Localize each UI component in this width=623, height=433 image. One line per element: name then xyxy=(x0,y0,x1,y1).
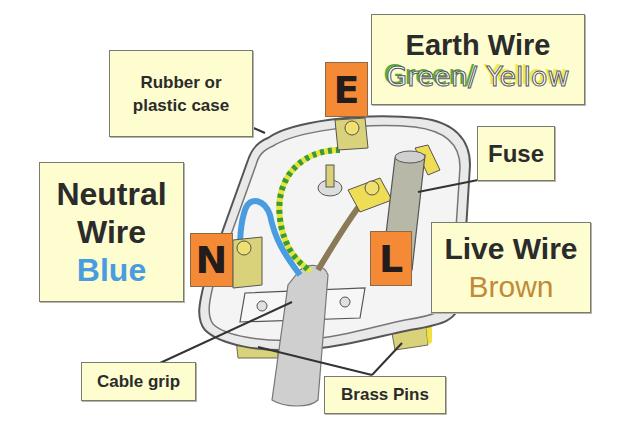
cable-grip-text: Cable grip xyxy=(97,372,180,392)
terminal-tile-live: L xyxy=(370,231,412,286)
label-case-line1: Rubber or xyxy=(140,71,221,94)
live-wire-color: Brown xyxy=(468,268,553,306)
neutral-color: Blue xyxy=(77,251,146,289)
label-brass-pins: Brass Pins xyxy=(324,376,446,414)
live-wire-title: Live Wire xyxy=(444,230,577,268)
earth-wire-colors: Green/ Yellow xyxy=(386,62,569,92)
brass-pins-text: Brass Pins xyxy=(341,385,429,405)
earth-color-separator: / xyxy=(468,61,477,92)
terminal-letter-e: E xyxy=(334,68,360,112)
earth-wire-title: Earth Wire xyxy=(406,28,551,62)
label-cable-grip: Cable grip xyxy=(81,362,196,401)
neutral-line1: Neutral xyxy=(56,175,166,213)
label-earth-wire: Earth Wire Green/ Yellow xyxy=(371,14,585,105)
earth-color-yellow: Yellow xyxy=(487,61,570,92)
terminal-letter-l: L xyxy=(379,237,403,281)
fuse-text: Fuse xyxy=(488,140,544,168)
label-neutral-wire: Neutral Wire Blue xyxy=(39,162,184,302)
label-case-line2: plastic case xyxy=(133,94,229,117)
terminal-tile-earth: E xyxy=(325,62,368,117)
earth-color-green: Green xyxy=(386,61,468,92)
label-live-wire: Live Wire Brown xyxy=(431,222,591,313)
terminal-letter-n: N xyxy=(196,238,228,282)
terminal-tile-neutral: N xyxy=(190,233,233,287)
label-case: Rubber or plastic case xyxy=(109,50,253,137)
label-fuse: Fuse xyxy=(477,126,555,181)
neutral-line2: Wire xyxy=(77,213,146,251)
